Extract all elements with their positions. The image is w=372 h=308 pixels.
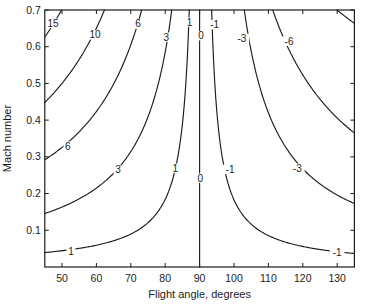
contour-label: -1 [226,164,235,175]
contour-label: 3 [163,32,169,43]
contour-label: -6 [285,36,294,47]
y-tick-label: 0.6 [26,40,41,52]
contour-label: 10 [89,29,101,40]
contour-label: 6 [65,141,71,152]
x-tick-label: 100 [225,272,243,284]
contour-label: 0 [198,173,204,184]
y-tick-label: 0.4 [26,114,41,126]
contour-figure: 15106310-1-3-66310-1-31-1506070809010011… [0,0,372,308]
contour-plot: 15106310-1-3-66310-1-31-1506070809010011… [0,0,372,308]
y-tick-label: 0.3 [26,150,41,162]
x-tick-label: 60 [91,272,103,284]
x-tick-label: 50 [56,272,68,284]
contour-label: 15 [47,18,59,29]
x-tick-label: 80 [159,272,171,284]
x-tick-label: 120 [294,272,312,284]
contour-label: 3 [115,164,121,175]
contour-label: 0 [198,30,204,41]
y-axis-label: Mach number [1,105,13,173]
contour-label: 6 [135,18,141,29]
contour-label: 1 [187,17,193,28]
x-tick-label: 90 [194,272,206,284]
y-tick-label: 0.1 [26,224,41,236]
contour-label: 1 [68,246,74,257]
y-tick-label: 0.5 [26,77,41,89]
x-tick-label: 110 [260,272,277,284]
contour-label: 1 [172,163,178,174]
x-tick-label: 130 [328,272,346,284]
figure-background [0,0,372,308]
y-tick-label: 0.7 [26,4,41,16]
contour-label: -3 [237,33,246,44]
contour-label: -1 [333,247,342,258]
contour-label: -3 [293,163,302,174]
contour-label: -1 [210,19,219,30]
y-tick-label: 0.2 [26,187,41,199]
x-tick-label: 70 [125,272,137,284]
x-axis-label: Flight angle, degrees [148,288,251,300]
